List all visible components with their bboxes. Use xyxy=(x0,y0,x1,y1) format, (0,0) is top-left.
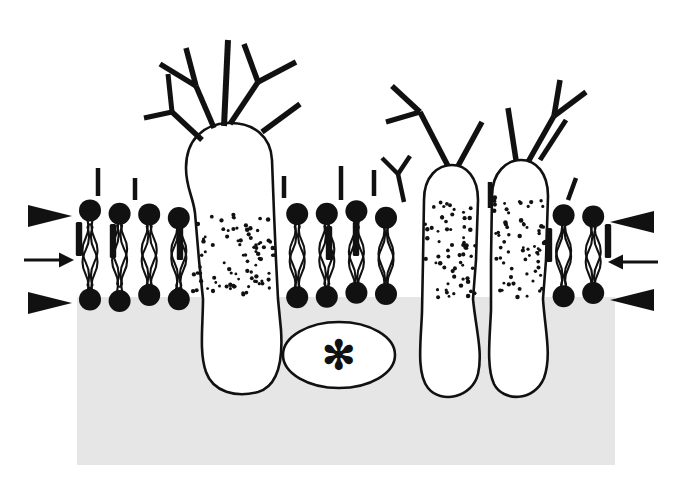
glycan-branch xyxy=(508,108,516,160)
lipid-head-outer xyxy=(375,207,397,229)
lipid-head-outer xyxy=(553,204,575,226)
glycolipid-stalk xyxy=(382,158,398,174)
lipid-head-inner xyxy=(168,288,190,310)
lipid-head-inner xyxy=(375,283,397,305)
glycan-branch xyxy=(196,86,214,128)
lipid-tail-outer xyxy=(379,219,394,292)
lipid-head-outer xyxy=(286,203,308,225)
cholesterol-rod xyxy=(326,226,332,260)
glycan-branch xyxy=(224,40,228,126)
peripheral-protein-asterisk: ✻ xyxy=(322,333,356,378)
diagram-canvas: ✻ xyxy=(0,0,682,495)
cholesterol-rod xyxy=(546,228,552,262)
lipid-head-outer xyxy=(345,200,367,222)
arrowhead-lower-left xyxy=(28,292,72,314)
glycan-branch xyxy=(244,44,258,82)
glycolipid-stalk xyxy=(398,174,404,202)
lipid-head-outer xyxy=(316,203,338,225)
lipid-head-inner xyxy=(316,286,338,308)
glycan-branch xyxy=(230,82,258,124)
glycan-branch xyxy=(172,112,202,140)
lipid-head-inner xyxy=(286,286,308,308)
lipid-head-inner xyxy=(582,282,604,304)
cholesterol-rod xyxy=(110,224,116,258)
cholesterol-rod xyxy=(353,222,359,256)
glycan-branch xyxy=(258,62,296,82)
glycan-branch xyxy=(168,74,172,112)
arrowhead-lower-right xyxy=(610,289,654,311)
integral-protein-right-a-body xyxy=(420,165,480,397)
lipid-head-outer xyxy=(582,206,604,228)
arrowhead-upper-right xyxy=(610,211,654,233)
glycolipid-stalk xyxy=(568,178,576,200)
glycan-branch xyxy=(420,112,448,166)
glycan-branch xyxy=(144,112,172,118)
lipid-head-outer xyxy=(138,203,160,225)
arrow-middle-left-head xyxy=(59,253,74,268)
lipid-tail-inner xyxy=(556,219,571,292)
lipid-head-inner xyxy=(79,288,101,310)
glycan-branch xyxy=(386,112,420,122)
glycan-branch xyxy=(262,104,300,132)
cholesterol-rod xyxy=(177,226,183,260)
lipid-head-outer xyxy=(79,199,101,221)
lipid-head-inner xyxy=(345,282,367,304)
integral-protein-right-b-body xyxy=(489,160,548,397)
lipid-head-outer xyxy=(109,203,131,225)
lipid-head-inner xyxy=(138,284,160,306)
glycan-branch xyxy=(392,86,420,112)
lipid-head-inner xyxy=(109,290,131,312)
glycan-branch xyxy=(458,122,482,166)
arrowhead-upper-left xyxy=(28,205,72,227)
cholesterol-rod xyxy=(76,222,82,256)
glycan-branch xyxy=(540,120,566,160)
membrane-diagram: ✻ Fluid mosaic model of the plasma membr… xyxy=(0,0,682,495)
glycolipid-stalk xyxy=(398,156,410,174)
lipid-head-outer xyxy=(168,207,190,229)
cholesterol-rod xyxy=(605,224,611,258)
lipid-head-inner xyxy=(553,285,575,307)
